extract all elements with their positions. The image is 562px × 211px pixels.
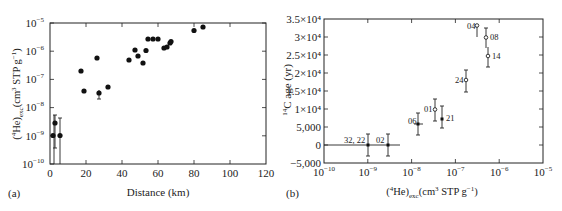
svg-text:40: 40 — [117, 167, 129, 179]
figure: 10−5 10−6 10−7 10−8 10−9 10−10 0 20 40 6… — [0, 0, 562, 211]
svg-text:120: 120 — [258, 167, 275, 179]
svg-text:21: 21 — [446, 113, 455, 123]
svg-text:10−10: 10−10 — [22, 157, 44, 170]
panel-b: 3.5×10⁴ 3×10⁴ 2.5×10⁴ 2×10⁴ 1.5×10⁴ 1×10… — [281, 13, 553, 200]
svg-text:10−9: 10−9 — [26, 129, 45, 142]
svg-text:60: 60 — [153, 167, 165, 179]
svg-text:10−5: 10−5 — [534, 165, 553, 178]
y-error-bars-b — [366, 25, 490, 156]
x-axis-label-a: Distance (km) — [127, 186, 190, 199]
plot-area-a — [50, 23, 266, 164]
svg-text:3×10⁴: 3×10⁴ — [294, 31, 321, 43]
svg-text:08: 08 — [490, 32, 499, 42]
data-points-a — [50, 24, 205, 138]
svg-text:14: 14 — [492, 51, 501, 61]
svg-text:0: 0 — [47, 167, 53, 179]
panel-tag-a: (a) — [8, 187, 21, 200]
svg-text:01: 01 — [424, 104, 433, 114]
svg-text:3.5×10⁴: 3.5×10⁴ — [286, 13, 321, 25]
svg-text:02: 02 — [376, 135, 385, 145]
panel-tag-b: (b) — [286, 187, 299, 200]
error-bars-a — [53, 90, 101, 164]
panel-a: 10−5 10−6 10−7 10−8 10−9 10−10 0 20 40 6… — [8, 16, 275, 200]
svg-text:2.5×10⁴: 2.5×10⁴ — [286, 49, 321, 61]
x-ticks-a — [86, 23, 230, 164]
svg-text:20: 20 — [81, 167, 93, 179]
svg-text:10−8: 10−8 — [402, 165, 421, 178]
x-axis-label-b: (4He)exc(cm3 STP g−1) — [386, 185, 478, 200]
x-error-bars-b — [324, 124, 423, 145]
svg-text:10−5: 10−5 — [26, 16, 45, 29]
svg-text:10−10: 10−10 — [313, 165, 335, 178]
svg-text:10−9: 10−9 — [359, 165, 378, 178]
data-points-b — [367, 24, 490, 147]
svg-text:04: 04 — [467, 21, 476, 31]
svg-text:10−6: 10−6 — [26, 44, 45, 57]
y-axis-label-b: 14C age (yr) — [281, 64, 294, 116]
svg-text:32, 22: 32, 22 — [344, 135, 365, 145]
svg-text:06: 06 — [408, 116, 417, 126]
svg-text:2×10⁴: 2×10⁴ — [294, 67, 321, 79]
y-tick-labels-a: 10−5 10−6 10−7 10−8 10−9 10−10 — [22, 16, 44, 170]
x-tick-labels-b: 10−10 10−9 10−8 10−7 10−6 10−5 — [313, 165, 553, 178]
y-ticks-b — [324, 37, 543, 145]
svg-text:0: 0 — [316, 139, 322, 151]
svg-text:10−7: 10−7 — [26, 72, 45, 85]
x-tick-labels-a: 0 20 40 60 80 100 120 — [47, 167, 275, 179]
svg-text:5,000: 5,000 — [296, 121, 321, 133]
y-ticks-a — [50, 23, 266, 164]
y-axis-label-a: (4He)exc(cm3 STP g−1) — [10, 48, 25, 140]
svg-text:80: 80 — [189, 167, 201, 179]
svg-text:1×10⁴: 1×10⁴ — [294, 103, 321, 115]
x-ticks-b — [368, 19, 499, 163]
svg-text:100: 100 — [222, 167, 239, 179]
point-labels-b: 32, 22 02 06 01 21 24 04 08 14 — [344, 21, 501, 145]
svg-text:10−7: 10−7 — [446, 165, 465, 178]
svg-text:24: 24 — [455, 75, 464, 85]
svg-text:10−8: 10−8 — [26, 100, 45, 113]
svg-text:10−6: 10−6 — [490, 165, 509, 178]
